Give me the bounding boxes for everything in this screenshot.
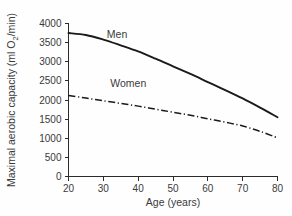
x-tick-label: 70 — [237, 183, 249, 194]
y-tick-label: 2500 — [39, 75, 62, 86]
y-tick-label: 3500 — [39, 37, 62, 48]
y-tick-label: 1500 — [39, 114, 62, 125]
y-axis-title-prefix: Maximal aerobic capacity (ml O — [5, 41, 17, 187]
series-label-men: Men — [107, 28, 128, 40]
y-tick-label: 2000 — [39, 95, 62, 106]
aerobic-capacity-line-chart: 05001000150020002500300035004000 2030405… — [0, 0, 292, 216]
x-tick-label: 20 — [63, 183, 75, 194]
x-tick-label: 40 — [133, 183, 145, 194]
y-tick-label: 3000 — [39, 56, 62, 67]
y-axis-title-suffix: /min) — [5, 13, 17, 36]
x-tick-label: 60 — [202, 183, 214, 194]
y-tick-label: 1000 — [39, 133, 62, 144]
y-tick-label: 4000 — [39, 18, 62, 29]
chart-figure: 05001000150020002500300035004000 2030405… — [0, 0, 292, 216]
x-tick-label: 80 — [272, 183, 284, 194]
x-tick-label: 30 — [98, 183, 110, 194]
series-label-women: Women — [110, 77, 146, 89]
x-axis-title: Age (years) — [146, 196, 200, 208]
y-tick-label: 0 — [56, 171, 62, 182]
y-tick-label: 500 — [45, 152, 62, 163]
x-tick-label: 50 — [167, 183, 179, 194]
